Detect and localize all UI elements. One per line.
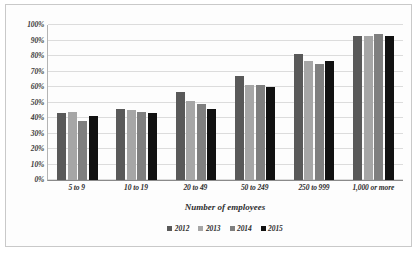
bar	[127, 110, 136, 180]
legend-swatch-icon	[261, 226, 266, 231]
chart-legend: 2012201320142015	[47, 224, 403, 233]
x-axis-tick-label: 250 to 999	[284, 183, 343, 192]
x-axis-tick-label: 1,000 or more	[344, 183, 403, 192]
bar	[197, 104, 206, 180]
legend-label: 2015	[268, 224, 283, 233]
bar-group	[176, 25, 217, 180]
bar-group	[57, 25, 98, 180]
y-axis-tick-label: 60%	[31, 82, 44, 91]
bar	[89, 116, 98, 180]
legend-swatch-icon	[198, 226, 203, 231]
bar-group	[235, 25, 276, 180]
bar	[315, 64, 324, 180]
bar	[78, 121, 87, 180]
bar	[137, 112, 146, 180]
legend-item[interactable]: 2013	[198, 224, 220, 233]
bar	[186, 101, 195, 180]
y-axis-tick-label: 0%	[34, 175, 44, 184]
bar	[385, 36, 394, 180]
bar	[304, 61, 313, 180]
x-axis-tick-label: 50 to 249	[225, 183, 284, 192]
x-axis-tick-label: 10 to 19	[106, 183, 165, 192]
bar-group	[116, 25, 157, 180]
bar	[116, 109, 125, 180]
y-axis-tick-label: 10%	[31, 159, 44, 168]
bar-group	[353, 25, 394, 180]
bar-group	[294, 25, 335, 180]
legend-item[interactable]: 2014	[230, 224, 252, 233]
legend-swatch-icon	[167, 226, 172, 231]
bar	[57, 113, 66, 180]
x-axis-tick-label: 20 to 49	[166, 183, 225, 192]
y-axis-tick-label: 90%	[31, 35, 44, 44]
y-axis-tick-label: 100%	[27, 20, 44, 29]
bar	[256, 85, 265, 180]
bar	[207, 109, 216, 180]
bar	[176, 92, 185, 180]
bar	[364, 36, 373, 180]
y-axis-tick-label: 70%	[31, 66, 44, 75]
x-axis-title: Number of employees	[47, 202, 403, 212]
legend-label: 2013	[206, 224, 221, 233]
x-axis-tick-labels: 5 to 910 to 1920 to 4950 to 249250 to 99…	[47, 183, 403, 192]
legend-label: 2012	[175, 224, 190, 233]
plot-area: 0%10%20%30%40%50%60%70%80%90%100%	[47, 25, 403, 181]
x-axis-tick-label: 5 to 9	[47, 183, 106, 192]
legend-item[interactable]: 2015	[261, 224, 283, 233]
bar	[266, 87, 275, 180]
legend-label: 2014	[237, 224, 252, 233]
chart-frame: 0%10%20%30%40%50%60%70%80%90%100% 5 to 9…	[5, 4, 412, 247]
bar	[294, 54, 303, 180]
bars-layer	[48, 25, 403, 180]
legend-swatch-icon	[230, 226, 235, 231]
y-axis-tick-label: 30%	[31, 128, 44, 137]
bar	[235, 76, 244, 180]
bar	[325, 61, 334, 180]
y-axis-tick-label: 20%	[31, 144, 44, 153]
y-axis-tick-label: 50%	[31, 97, 44, 106]
legend-item[interactable]: 2012	[167, 224, 189, 233]
bar	[353, 36, 362, 180]
y-axis-tick-label: 80%	[31, 51, 44, 60]
bar	[68, 112, 77, 180]
y-axis-tick-label: 40%	[31, 113, 44, 122]
bar	[148, 113, 157, 180]
bar	[245, 85, 254, 180]
bar	[374, 34, 383, 180]
